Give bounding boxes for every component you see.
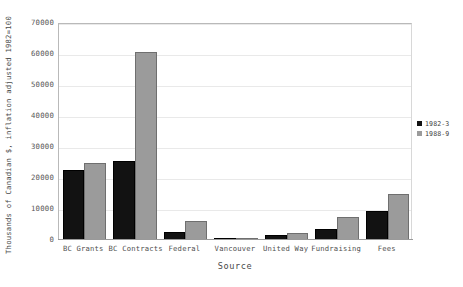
y-axis-tick-label: 60000: [10, 50, 54, 58]
y-axis-tick-label: 20000: [10, 174, 54, 182]
legend-item[interactable]: 1982-3: [417, 119, 463, 128]
bar: [113, 161, 135, 240]
y-axis-tick-labels: 700006000050000400003000020000100000: [8, 0, 54, 287]
legend-swatch-icon: [417, 131, 422, 136]
legend-label: 1982-3: [425, 120, 449, 128]
x-axis-tick-label: United Way: [260, 244, 311, 254]
x-axis-tick-label: BC Contracts: [109, 244, 160, 254]
bar: [135, 52, 157, 240]
bar: [185, 221, 207, 240]
y-axis-tick-label: 50000: [10, 81, 54, 89]
y-axis-tick-label: 40000: [10, 112, 54, 120]
bar: [366, 211, 388, 240]
bar-chart: Thousands of Canadian $, inflation adjus…: [0, 0, 463, 287]
bar-series-layer: [59, 24, 411, 240]
bar: [388, 194, 410, 241]
bar-group: [211, 24, 262, 240]
bar-group: [312, 24, 363, 240]
bar-group: [160, 24, 211, 240]
bar: [84, 163, 106, 240]
y-axis-tick-label: 30000: [10, 143, 54, 151]
bar-group: [261, 24, 312, 240]
y-axis-tick-label: 0: [10, 236, 54, 244]
bar: [63, 170, 85, 240]
x-axis-tick-labels: BC GrantsBC ContractsFederalVancouverUni…: [58, 244, 412, 256]
bar-group: [110, 24, 161, 240]
x-axis-tick-label: BC Grants: [58, 244, 109, 254]
x-axis-title: Source: [58, 261, 412, 271]
bar: [337, 217, 359, 240]
legend-swatch-icon: [417, 121, 422, 126]
legend: 1982-31988-9: [417, 119, 463, 139]
x-axis-tick-label: Fundraising: [311, 244, 362, 254]
plot-area: [58, 23, 412, 240]
legend-item[interactable]: 1988-9: [417, 129, 463, 138]
x-axis-line: [58, 239, 413, 240]
bar-group: [59, 24, 110, 240]
legend-label: 1988-9: [425, 130, 449, 138]
x-axis-tick-label: Fees: [361, 244, 412, 254]
x-axis-tick-label: Vancouver: [210, 244, 261, 254]
x-axis-tick-label: Federal: [159, 244, 210, 254]
y-axis-tick-label: 10000: [10, 205, 54, 213]
bar-group: [362, 24, 413, 240]
y-axis-tick-label: 70000: [10, 19, 54, 27]
